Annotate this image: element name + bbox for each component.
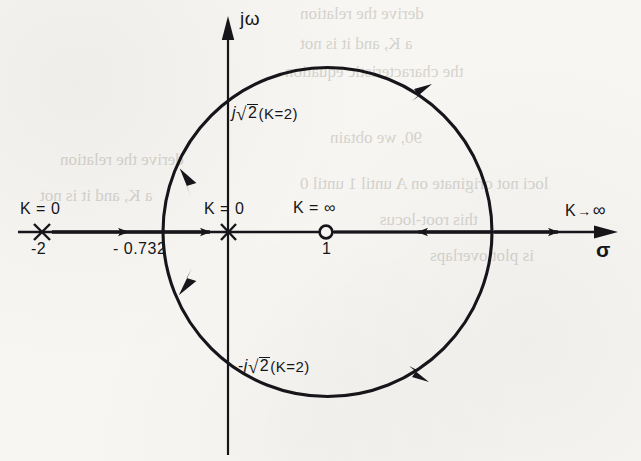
real-axis-arrowhead: [594, 226, 618, 239]
annotation-break-point: - 0.732: [113, 240, 166, 258]
circle-arrow-lower-left: [179, 267, 198, 297]
annotation-minus-two: -2: [31, 240, 46, 258]
annotation-k-infinity-zero-text: K = ∞: [293, 199, 336, 216]
annotation-minus-two-text: -2: [31, 240, 46, 257]
root-locus-figure: derive the relation a K, and it is not t…: [0, 0, 641, 461]
annotation-lower-crossing: - j √ 2 (K=2): [238, 357, 310, 375]
annotation-upper-crossing-tail: (K=2): [258, 105, 298, 122]
imaginary-axis-arrowhead: [222, 16, 234, 40]
zero-marker-one: [320, 226, 333, 239]
annotation-lower-crossing-tail: (K=2): [270, 358, 310, 375]
annotation-one: 1: [322, 240, 331, 258]
sqrt-icon-lower: √: [248, 358, 259, 375]
root-locus-canvas: [0, 0, 641, 461]
axis-label-imaginary: jω: [240, 8, 260, 30]
annotation-upper-crossing: j √ 2 (K=2): [232, 104, 298, 122]
sqrt-icon-upper: √: [236, 105, 247, 122]
annotation-k-zero-left-text: K = 0: [20, 200, 60, 217]
annotation-k-zero-origin-text: K = 0: [204, 200, 244, 217]
annotation-k-to-infinity-k: K: [565, 202, 576, 220]
annotation-lower-crossing-radicand: 2: [260, 357, 269, 374]
annotation-break-point-text: - 0.732: [113, 240, 166, 257]
circle-arrow-upper-left: [180, 167, 198, 196]
radical-bar-lower: [259, 357, 270, 358]
radical-bar-upper: [247, 104, 258, 105]
annotation-k-zero-origin: K = 0: [204, 200, 244, 218]
arrow-right-icon: →: [577, 203, 592, 219]
annotation-k-to-infinity: K → ∞: [565, 200, 606, 221]
annotation-k-infinity-zero: K = ∞: [293, 199, 336, 217]
axis-label-real-text: σ: [596, 238, 611, 261]
annotation-upper-crossing-radicand: 2: [248, 104, 257, 121]
annotation-one-text: 1: [322, 240, 331, 257]
annotation-upper-crossing-radicand-wrap: 2: [247, 104, 258, 122]
axis-label-imaginary-text: jω: [240, 8, 260, 29]
annotation-k-to-infinity-sym: ∞: [593, 200, 606, 221]
annotation-k-zero-left: K = 0: [20, 200, 60, 218]
axis-label-real: σ: [596, 238, 611, 262]
annotation-lower-crossing-radicand-wrap: 2: [259, 357, 270, 375]
